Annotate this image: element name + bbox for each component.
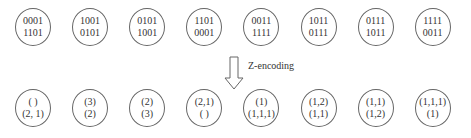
encoded-node-line1: (3) xyxy=(84,96,96,108)
encoded-node: (1)(1,1,1) xyxy=(243,89,279,127)
encoded-node-line2: (3) xyxy=(141,108,153,120)
encoded-node-line1: (1,2) xyxy=(309,96,328,108)
binary-node-line2: 1101 xyxy=(23,27,43,39)
encoded-node: (1,2)(1,1) xyxy=(301,89,337,127)
binary-node: 10010101 xyxy=(72,8,108,46)
binary-node-line2: 1111 xyxy=(252,27,271,39)
encoded-node-line1: (2) xyxy=(141,96,153,108)
binary-node-line1: 0111 xyxy=(366,15,385,27)
encoded-node: (3)(2) xyxy=(72,89,108,127)
binary-node: 00011101 xyxy=(15,8,51,46)
binary-node: 10110111 xyxy=(301,8,337,46)
encoded-node: (2)(3) xyxy=(129,89,165,127)
encoded-node-line1: (1,1,1) xyxy=(419,96,446,108)
binary-node-line1: 0101 xyxy=(137,15,157,27)
binary-node-line1: 1011 xyxy=(309,15,329,27)
encoded-node-line1: (2,1) xyxy=(195,96,214,108)
encoded-node-line2: ( ) xyxy=(200,108,209,120)
binary-node-line2: 1001 xyxy=(137,27,157,39)
encoded-node-line1: ( ) xyxy=(28,96,37,108)
encoded-node-line2: (1) xyxy=(427,108,439,120)
encoded-node-line2: (2) xyxy=(84,108,96,120)
binary-node-line2: 0011 xyxy=(423,27,443,39)
encoded-node: (1,1)(1,2) xyxy=(358,89,394,127)
arrow-label: Z-encoding xyxy=(248,60,294,71)
binary-node-line1: 1101 xyxy=(194,15,214,27)
binary-node-line1: 1001 xyxy=(80,15,100,27)
binary-node-line2: 1011 xyxy=(366,27,386,39)
binary-node: 11010001 xyxy=(186,8,222,46)
encoded-node: (1,1,1)(1) xyxy=(415,89,451,127)
binary-node-line2: 0111 xyxy=(309,27,328,39)
binary-node-line2: 0101 xyxy=(80,27,100,39)
binary-node: 01111011 xyxy=(358,8,394,46)
encoded-node-line2: (1,2) xyxy=(366,108,385,120)
encoded-node: (2,1)( ) xyxy=(186,89,222,127)
binary-node: 01011001 xyxy=(129,8,165,46)
encoded-node: ( )(2, 1) xyxy=(15,89,51,127)
binary-node-line1: 0001 xyxy=(23,15,43,27)
binary-node-line2: 0001 xyxy=(194,27,214,39)
binary-node: 00111111 xyxy=(243,8,279,46)
encoded-node-line1: (1) xyxy=(256,96,268,108)
binary-node: 11110011 xyxy=(415,8,451,46)
down-arrow-icon xyxy=(224,56,244,90)
encoded-node-line2: (1,1,1) xyxy=(248,108,275,120)
encoded-node-line1: (1,1) xyxy=(366,96,385,108)
encoded-node-line2: (1,1) xyxy=(309,108,328,120)
encoded-node-line2: (2, 1) xyxy=(22,108,44,120)
binary-node-line1: 1111 xyxy=(423,15,442,27)
binary-node-line1: 0011 xyxy=(252,15,272,27)
